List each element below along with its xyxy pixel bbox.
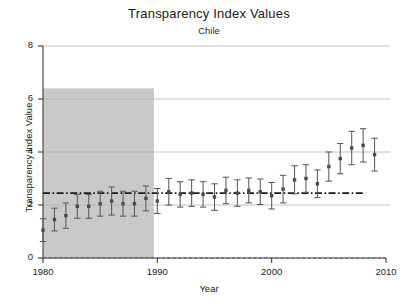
data-marker	[316, 182, 319, 185]
data-marker	[201, 193, 204, 196]
plot-canvas	[0, 0, 418, 304]
x-tick-label-1980: 1980	[23, 266, 63, 277]
data-marker	[156, 199, 159, 202]
data-marker	[236, 191, 239, 194]
data-marker	[293, 178, 296, 181]
data-point-1999	[257, 179, 263, 204]
data-marker	[144, 197, 147, 200]
data-marker	[259, 190, 262, 193]
data-marker	[64, 214, 67, 217]
data-marker	[224, 189, 227, 192]
data-marker	[327, 165, 330, 168]
data-point-2001	[280, 175, 286, 203]
data-marker	[373, 153, 376, 156]
data-marker	[110, 199, 113, 202]
data-marker	[281, 187, 284, 190]
data-point-1991	[166, 179, 172, 206]
data-point-1995	[211, 184, 217, 211]
y-tick-label-6: 6	[7, 92, 33, 103]
data-point-2007	[349, 131, 355, 164]
data-point-1992	[177, 182, 183, 207]
data-point-2008	[360, 129, 366, 162]
data-point-2002	[291, 166, 297, 194]
data-marker	[270, 194, 273, 197]
data-marker	[98, 202, 101, 205]
data-point-1996	[223, 177, 229, 204]
data-marker	[121, 202, 124, 205]
data-marker	[41, 228, 44, 231]
data-marker	[361, 144, 364, 147]
data-marker	[87, 205, 90, 208]
data-marker	[190, 191, 193, 194]
data-marker	[133, 202, 136, 205]
data-point-2005	[326, 152, 332, 181]
transparency-index-chart: Transparency Index Values Chile Transpar…	[0, 0, 418, 304]
x-tick-label-2000: 2000	[252, 266, 292, 277]
data-marker	[76, 205, 79, 208]
data-marker	[179, 193, 182, 196]
data-marker	[339, 157, 342, 160]
y-tick-label-2: 2	[7, 198, 33, 209]
x-tick-label-2010: 2010	[366, 266, 406, 277]
data-marker	[247, 189, 250, 192]
data-marker	[213, 195, 216, 198]
data-point-2003	[303, 165, 309, 193]
shaded-region-band	[43, 88, 154, 258]
data-marker	[304, 177, 307, 180]
data-point-2006	[337, 144, 343, 174]
y-tick-label-0: 0	[7, 251, 33, 262]
data-marker	[167, 190, 170, 193]
data-point-1994	[200, 182, 206, 207]
x-tick-label-1990: 1990	[137, 266, 177, 277]
data-marker	[350, 146, 353, 149]
y-tick-label-4: 4	[7, 145, 33, 156]
data-point-2009	[371, 138, 377, 171]
data-marker	[53, 218, 56, 221]
data-point-1998	[246, 178, 252, 203]
y-tick-label-8: 8	[7, 39, 33, 50]
